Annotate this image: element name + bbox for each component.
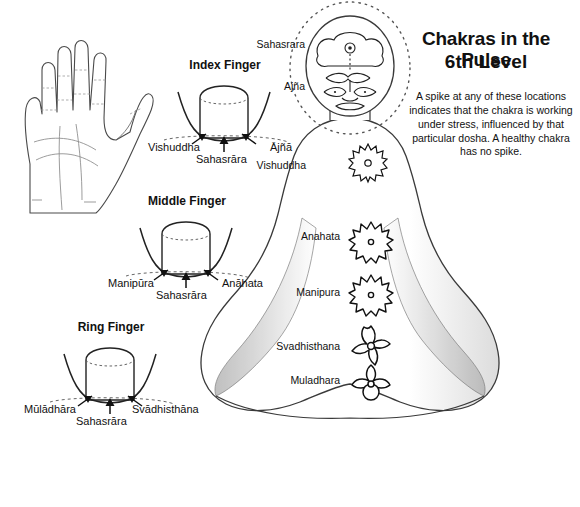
middle-finger-diagram: Middle Finger Manipūra Sahasrāra Anāhata — [112, 194, 262, 280]
figure-label-manipura: Manipura — [272, 287, 340, 298]
ring-finger-diagram: Ring Finger Mūlādhāra Sahasrāra Svādhist… — [36, 320, 186, 406]
index-finger-left-label: Vishuddha — [148, 142, 200, 153]
figure-label-svadhisthana: Svadhisthana — [258, 341, 340, 352]
index-finger-right-label: Ājñā — [270, 142, 292, 153]
figure-label-anahata: Anahata — [272, 231, 340, 242]
ring-finger-center-label: Sahasrāra — [76, 416, 127, 427]
index-finger-title: Index Finger — [150, 58, 300, 72]
muladhara-chakra-symbol — [348, 362, 394, 408]
anahata-chakra-symbol — [347, 219, 395, 267]
page-subtitle: 6th Level — [398, 51, 574, 72]
ring-finger-title: Ring Finger — [36, 320, 186, 334]
middle-finger-right-label: Anāhata — [222, 278, 263, 289]
ring-finger-left-label: Mūlādhāra — [24, 404, 76, 415]
chakras-in-the-pulse-illustration: Chakras in the Pulse 6th Level A spike a… — [0, 0, 580, 507]
description-text: A spike at any of these locations indica… — [408, 90, 574, 159]
vishuddha-chakra-symbol — [348, 142, 388, 182]
open-palm-hand-illustration — [12, 14, 162, 214]
index-finger-diagram: Index Finger Vishuddha Sahasrāra Ājñā — [150, 58, 300, 144]
middle-finger-left-label: Manipūra — [108, 278, 154, 289]
figure-label-sahasrara: Sahasrara — [237, 39, 305, 50]
middle-finger-title: Middle Finger — [112, 194, 262, 208]
manipura-chakra-symbol — [347, 272, 395, 320]
ring-finger-right-label: Svādhisthāna — [132, 404, 199, 415]
middle-finger-center-label: Sahasrāra — [156, 290, 207, 301]
index-finger-center-label: Sahasrāra — [196, 154, 247, 165]
figure-label-muladhara: Muladhara — [268, 375, 340, 386]
